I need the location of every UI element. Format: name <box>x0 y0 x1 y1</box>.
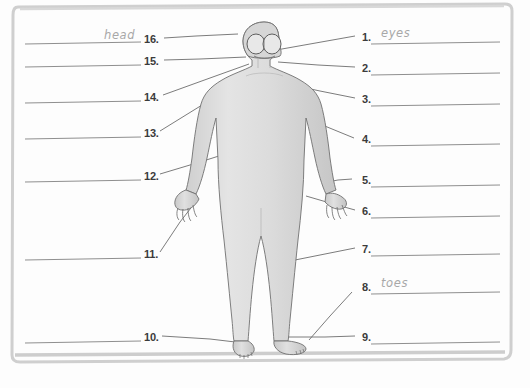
item-number-9: 9. <box>362 331 371 343</box>
item-number-4: 4. <box>362 133 371 145</box>
leader-line-9 <box>288 336 355 337</box>
answer-line-3 <box>371 104 500 106</box>
leader-line-2 <box>278 62 355 67</box>
right-hand <box>325 193 347 220</box>
answer-line-13 <box>25 137 141 139</box>
answer-value-16[interactable]: head <box>104 28 135 42</box>
item-number-11: 11. <box>144 248 158 260</box>
item-number-5: 5. <box>362 174 371 186</box>
answer-line-5 <box>371 185 500 187</box>
answer-line-6 <box>371 216 500 218</box>
answer-lines-left[interactable] <box>25 42 141 343</box>
item-number-8: 8. <box>362 281 371 293</box>
answer-line-4 <box>371 144 500 146</box>
leader-line-7 <box>290 248 355 261</box>
worksheet-page: 16. 15. 14. 13. 12. 11. 10. head 1. 2. 3… <box>0 0 530 388</box>
left-hand <box>175 190 199 222</box>
answer-line-15 <box>25 65 141 67</box>
leader-line-8 <box>309 292 352 340</box>
item-number-2: 2. <box>362 62 371 74</box>
leader-line-15 <box>164 57 246 60</box>
answer-line-2 <box>371 73 500 75</box>
item-number-12: 12. <box>144 170 159 182</box>
answer-line-16 <box>25 42 141 44</box>
answer-line-10 <box>25 341 141 343</box>
answer-line-14 <box>25 101 141 103</box>
body-silhouette <box>186 22 336 341</box>
answer-line-9 <box>371 342 500 344</box>
leader-line-16 <box>164 34 238 38</box>
answer-line-11 <box>25 258 141 260</box>
item-number-13: 13. <box>144 127 159 139</box>
item-number-10: 10. <box>144 331 159 343</box>
answer-line-7 <box>371 254 500 256</box>
answer-line-12 <box>25 180 141 182</box>
item-number-6: 6. <box>362 205 371 217</box>
left-foot <box>233 341 254 359</box>
item-number-16: 16. <box>144 33 159 45</box>
item-number-1: 1. <box>362 31 371 43</box>
item-number-7: 7. <box>362 243 371 255</box>
answer-value-1[interactable]: eyes <box>381 26 410 40</box>
answer-lines-right[interactable] <box>371 42 500 344</box>
worksheet-canvas <box>0 0 530 388</box>
human-body-figure <box>175 22 347 359</box>
item-number-3: 3. <box>362 93 371 105</box>
item-number-15: 15. <box>144 55 159 67</box>
answer-line-1 <box>371 42 500 44</box>
item-number-14: 14. <box>144 91 159 103</box>
answer-value-8[interactable]: toes <box>381 276 408 290</box>
answer-line-8 <box>371 292 500 294</box>
